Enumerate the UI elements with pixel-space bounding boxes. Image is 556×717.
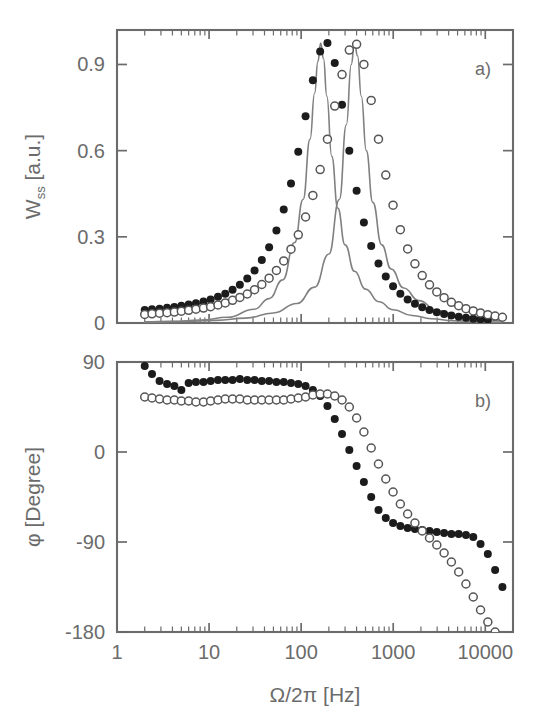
data-point-filled (353, 187, 361, 195)
data-point-filled (272, 227, 280, 235)
data-point-open (353, 40, 361, 48)
data-point-filled (258, 377, 266, 385)
data-point-filled (141, 362, 149, 370)
data-point-open (396, 500, 404, 508)
data-point-filled (404, 524, 412, 532)
data-point-filled (294, 380, 302, 388)
data-point-open (462, 580, 470, 588)
data-point-open (426, 534, 434, 542)
open-circle-series (141, 390, 507, 646)
data-point-filled (316, 48, 324, 56)
data-point-open (309, 191, 317, 199)
data-point-open (477, 606, 485, 614)
data-point-filled (433, 528, 441, 536)
panel-b-y-axis-label-text: φ [Degree] (21, 447, 44, 547)
data-point-open (258, 281, 266, 289)
data-point-filled (272, 378, 280, 386)
data-point-filled (177, 386, 185, 394)
panel-a-y-axis-subscript: ss (33, 186, 48, 200)
data-point-open (331, 102, 339, 110)
data-point-open (418, 272, 426, 280)
data-point-filled (382, 514, 390, 522)
data-point-open (374, 135, 382, 143)
data-point-open (251, 286, 259, 294)
data-point-filled (462, 531, 470, 539)
data-point-open (367, 444, 375, 452)
data-point-filled (170, 382, 178, 390)
panel-b-ytick-label-group: 900-90-180 (65, 351, 105, 643)
data-point-open (418, 527, 426, 535)
x-tick-label: 1000 (371, 641, 416, 663)
panel-b-ytick-label: 90 (83, 351, 105, 373)
data-point-open (433, 541, 441, 549)
data-point-filled (367, 493, 375, 501)
data-point-filled (229, 286, 237, 294)
data-point-open (396, 226, 404, 234)
data-point-filled (447, 312, 455, 320)
data-point-filled (185, 379, 193, 387)
data-point-open (367, 96, 375, 104)
data-point-open (426, 281, 434, 289)
fit-curve (145, 43, 502, 322)
panel-b-y-axis-label: φ [Degree] (21, 447, 44, 547)
data-point-filled (491, 566, 499, 574)
panel-a-frame-border (117, 30, 513, 323)
data-point-filled (214, 376, 222, 384)
data-point-open (294, 231, 302, 239)
data-point-open (272, 266, 280, 274)
panel-b-label: b) (475, 391, 491, 411)
x-tick-label: 1 (111, 641, 122, 663)
data-point-filled (221, 290, 229, 298)
data-point-filled (382, 272, 390, 280)
panel-a-y-axis-label: Wss [a.u.] (21, 134, 48, 219)
data-point-filled (389, 282, 397, 290)
data-point-filled (192, 378, 200, 386)
panel-a-y-axis-unit: [a.u.] (21, 134, 44, 187)
data-point-open (455, 568, 463, 576)
data-point-filled (411, 300, 419, 308)
data-point-open (469, 593, 477, 601)
data-point-open (338, 71, 346, 79)
data-point-open (156, 395, 164, 403)
data-point-filled (404, 295, 412, 303)
data-point-filled (345, 147, 353, 155)
data-point-filled (433, 308, 441, 316)
data-point-filled (207, 377, 215, 385)
x-axis-label: Ω/2π [Hz] (270, 683, 361, 706)
panel-b-ytick-label: -90 (76, 531, 105, 553)
panel-a-ytick-label: 0.6 (77, 140, 105, 162)
data-point-open (265, 274, 273, 282)
open-circle-series (141, 40, 507, 321)
data-point-filled (469, 533, 477, 541)
panel-b-ytick-label: 0 (94, 441, 105, 463)
data-point-filled (251, 376, 259, 384)
data-point-filled (484, 550, 492, 558)
data-point-filled (265, 243, 273, 251)
data-point-open (338, 396, 346, 404)
data-point-filled (360, 478, 368, 486)
data-point-filled (309, 76, 317, 84)
data-point-filled (374, 506, 382, 514)
data-point-filled (287, 379, 295, 387)
data-point-filled (418, 303, 426, 311)
data-point-open (484, 618, 492, 626)
x-tick-label: 10 (198, 641, 220, 663)
data-point-open (389, 488, 397, 496)
data-point-filled (243, 376, 251, 384)
data-point-open (440, 549, 448, 557)
data-point-open (192, 398, 200, 406)
data-point-filled (477, 540, 485, 548)
data-point-open (287, 245, 295, 253)
data-point-open (156, 309, 164, 317)
data-point-filled (294, 148, 302, 156)
data-point-open (491, 628, 499, 636)
data-point-open (148, 310, 156, 318)
data-point-filled (331, 415, 339, 423)
data-point-open (302, 213, 310, 221)
panel-b-ytick-label: -180 (65, 621, 105, 643)
data-point-open (316, 166, 324, 174)
data-point-filled (265, 377, 273, 385)
data-point-open (192, 305, 200, 313)
data-point-filled (236, 375, 244, 383)
data-point-open (323, 135, 331, 143)
